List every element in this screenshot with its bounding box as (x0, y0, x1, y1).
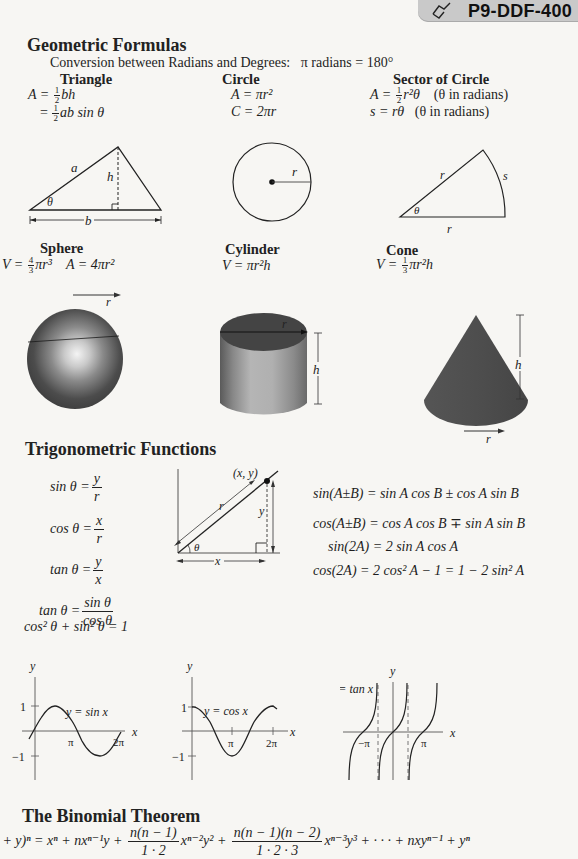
sector-area-formula: A = 12r²θ (θ in radians) (370, 86, 508, 105)
sine-xtick-pi: π (68, 736, 74, 748)
sector-label-r2: r (447, 222, 452, 236)
sine-xlabel: x (131, 725, 138, 739)
pythagorean-identity: cos² θ + sin² θ = 1 (24, 619, 128, 635)
cosine-definition: cos θ =xr (50, 512, 106, 547)
cosine-ylabel: y (186, 659, 193, 673)
triangle-label-b: b (85, 213, 92, 228)
cone-label-r: r (486, 432, 491, 445)
trig-label-point: (x, y) (233, 466, 258, 480)
sine-curve-label: y = sin x (65, 705, 108, 719)
sector-label-r1: r (440, 168, 445, 182)
sine-definition: sin θ =yr (50, 470, 104, 505)
tangent-curve-label: y = tan x (340, 682, 374, 696)
sphere-title: Sphere (40, 240, 83, 257)
trig-label-theta: θ (194, 541, 200, 553)
cone-volume-formula: V = 13πr²h (376, 256, 433, 275)
triangle-label-h: h (107, 169, 114, 184)
tangent-xtick-negpi: −π (358, 737, 370, 749)
cone-diagram: h r (380, 305, 567, 445)
cosine-graph: y x 1 −1 π 2π y = cos x (170, 655, 350, 780)
conversion-line: Conversion between Radians and Degrees: … (50, 55, 393, 71)
cosine-curve-label: y = cos x (203, 704, 248, 718)
tangent-definition: tan θ =yx (50, 553, 105, 588)
triangle-area-sine-formula: = 12ab sin θ (40, 104, 104, 123)
sector-label-s: s (503, 169, 508, 183)
binomial-formula: (x + y)ⁿ = xⁿ + nxⁿ⁻¹y + n(n − 1)1 · 2xⁿ… (0, 824, 470, 859)
identity-sin-double: sin(2A) = 2 sin A cos A (328, 539, 458, 555)
document-id: P9-DDF-400 (468, 1, 572, 22)
tangent-ylabel: y (389, 664, 396, 678)
triangle-diagram: a h θ b (0, 135, 190, 235)
cone-label-h: h (515, 357, 522, 372)
triangle-area-formula: A = 12bh (28, 86, 75, 105)
identity-sin-sum: sin(A±B) = sin A cos B ± cos A sin B (313, 486, 519, 502)
tangent-graph: y x −π π y = tan x (340, 655, 540, 780)
sine-ylabel: y (29, 659, 36, 673)
identity-cos-double: cos(2A) = 2 cos² A − 1 = 1 − 2 sin² A (313, 563, 524, 579)
triangle-label-a: a (71, 160, 78, 175)
sphere-label-r: r (106, 295, 111, 309)
sine-ytick-1: 1 (20, 700, 26, 714)
section-title-geometric: Geometric Formulas (27, 35, 186, 56)
tangent-xlabel: x (449, 726, 456, 740)
cylinder-label-h: h (313, 362, 320, 377)
identity-cos-sum: cos(A±B) = cos A cos B ∓ sin A sin B (313, 515, 525, 532)
conversion-formula: π radians = 180° (301, 55, 394, 70)
circle-diagram: r (225, 138, 325, 233)
trig-label-r: r (219, 499, 224, 513)
cosine-ytick-neg1: −1 (172, 750, 185, 764)
trig-label-x: x (214, 554, 221, 568)
cylinder-label-r: r (282, 317, 287, 331)
bookmark-checkmark-icon (430, 2, 454, 20)
sine-graph: y x 1 −1 π 2π y = sin x (0, 655, 180, 780)
circle-label-r: r (292, 164, 298, 179)
cylinder-volume-formula: V = πr²h (222, 258, 270, 274)
section-title-trig: Trigonometric Functions (25, 439, 216, 460)
cylinder-diagram: r h (210, 300, 360, 430)
circle-title: Circle (222, 71, 260, 88)
sector-label-theta: θ (414, 204, 420, 216)
cosine-xlabel: x (289, 725, 296, 739)
cosine-ytick-1: 1 (181, 701, 187, 715)
trig-label-y: y (258, 504, 265, 518)
triangle-label-theta: θ (47, 195, 53, 209)
sine-ytick-neg1: −1 (12, 750, 25, 764)
tangent-xtick-pi: π (421, 737, 427, 749)
circle-area-formula: A = πr² (231, 87, 272, 103)
conversion-label: Conversion between Radians and Degrees: (50, 55, 290, 70)
sphere-diagram: r (0, 290, 150, 420)
circle-circumference-formula: C = 2πr (231, 104, 276, 120)
trig-triangle-diagram: x (x, y) r y θ (170, 465, 300, 585)
cosine-xtick-pi: π (228, 737, 234, 749)
sphere-volume-formula: V = 43πr³ A = 4πr² (2, 256, 114, 275)
sector-diagram: r s θ r (390, 140, 520, 240)
cosine-xtick-2pi: 2π (266, 737, 278, 749)
cylinder-title: Cylinder (225, 241, 280, 258)
sector-arc-formula: s = rθ (θ in radians) (370, 104, 489, 120)
sine-xtick-2pi: 2π (113, 736, 125, 748)
sphere-area-formula: A = 4πr² (66, 257, 114, 272)
